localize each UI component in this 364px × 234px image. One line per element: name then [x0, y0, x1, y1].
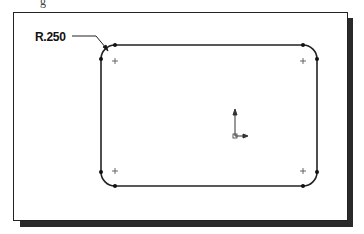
figure-stage: g	[0, 0, 364, 234]
rounded-rectangle-outline	[101, 45, 317, 186]
arc-center-marks	[112, 58, 306, 174]
tangent-points	[99, 43, 319, 188]
radius-leader-line	[72, 36, 108, 51]
radius-dimension-label: R.250	[35, 30, 66, 44]
origin-axes-icon	[233, 109, 248, 138]
